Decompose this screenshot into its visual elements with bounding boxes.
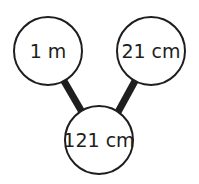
node-right-label: 21 cm (121, 40, 180, 62)
node-bottom: 121 cm (63, 106, 134, 174)
connector-left-to-bottom (64, 81, 82, 112)
number-bond-diagram: 1 m 21 cm 121 cm (0, 0, 199, 184)
node-bottom-label: 121 cm (63, 129, 134, 151)
node-left: 1 m (14, 17, 82, 85)
node-left-label: 1 m (30, 40, 67, 62)
diagram-svg: 1 m 21 cm 121 cm (0, 0, 199, 184)
node-right: 21 cm (117, 17, 185, 85)
connector-right-to-bottom (118, 81, 135, 112)
